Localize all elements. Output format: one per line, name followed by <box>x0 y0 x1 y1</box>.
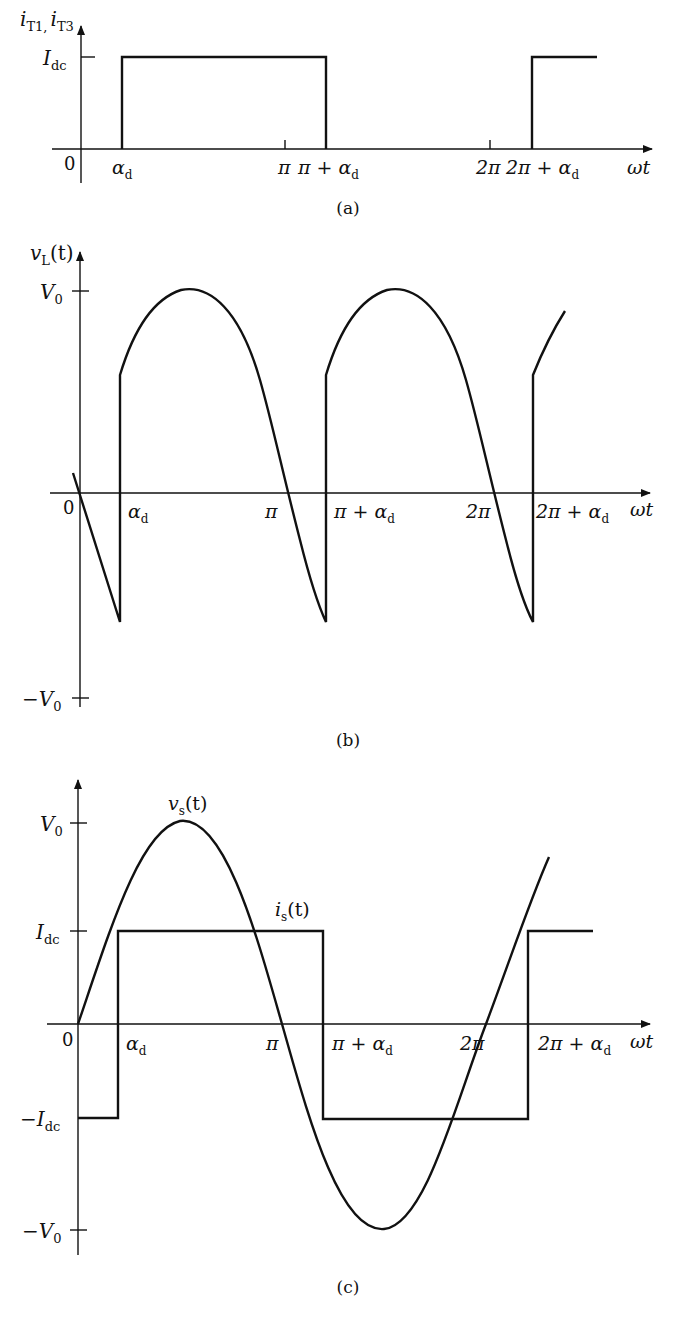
panel-b-xtick-pi-alpha: π + αd <box>333 500 395 526</box>
panel-a-thyristor-current: iT1,iT3 Idc 0 αd π π + αd 2π 2π + αd ωt … <box>20 7 652 218</box>
panel-c-xtick-2pi: 2π <box>459 1032 485 1054</box>
waveform-figure: iT1,iT3 Idc 0 αd π π + αd 2π 2π + αd ωt … <box>0 0 673 1326</box>
panel-a-caption: (a) <box>336 198 359 218</box>
panel-a-xtick-pi-alpha: π + αd <box>297 156 359 182</box>
panel-a-current-trace <box>122 57 326 149</box>
panel-b-x-label: ωt <box>630 498 653 520</box>
panel-c-xtick-2pi-alpha: 2π + αd <box>537 1032 611 1058</box>
panel-b-xtick-pi: π <box>264 500 278 522</box>
panel-c-x-label: ωt <box>630 1030 653 1052</box>
panel-c-origin-label: 0 <box>62 1029 73 1050</box>
panel-c-v0-label: V0 <box>40 812 63 839</box>
panel-c-xtick-alpha: αd <box>126 1032 147 1058</box>
panel-a-origin-label: 0 <box>64 153 75 174</box>
panel-a-x-label: ωt <box>627 156 650 178</box>
panel-a-xtick-2pi: 2π <box>475 156 501 178</box>
panel-b-origin-label: 0 <box>63 497 74 518</box>
panel-a-idc-label: Idc <box>42 46 67 73</box>
panel-b-voltage-trace <box>73 289 565 622</box>
panel-c-idc-label: Idc <box>35 920 60 947</box>
panel-b-y-label: vL(t) <box>30 241 74 268</box>
panel-b-xtick-2pi-alpha: 2π + αd <box>535 500 609 526</box>
panel-c-is-label: is(t) <box>275 898 310 924</box>
panel-a-current-trace-2 <box>532 57 597 149</box>
panel-b-xtick-2pi: 2π <box>465 500 491 522</box>
panel-c-xtick-pi-alpha: π + αd <box>331 1032 393 1058</box>
panel-c-vs-label: vs(t) <box>168 792 207 818</box>
panel-c-vs-trace <box>78 821 549 1229</box>
panel-c-source-voltage-current: vs(t) is(t) V0 Idc −Idc −V0 0 αd π π + α… <box>20 780 653 1297</box>
panel-c-neg-idc-label: −Idc <box>20 1107 60 1134</box>
panel-c-neg-v0-label: −V0 <box>22 1219 61 1246</box>
panel-b-v0-label: V0 <box>40 280 63 307</box>
panel-c-is-trace <box>78 931 593 1119</box>
panel-a-y-label: iT1,iT3 <box>20 7 74 34</box>
panel-b-caption: (b) <box>336 730 360 750</box>
panel-b-load-voltage: vL(t) V0 −V0 0 αd π π + αd 2π 2π + αd ωt… <box>22 241 653 750</box>
panel-b-xtick-alpha: αd <box>128 500 149 526</box>
panel-b-neg-v0-label: −V0 <box>22 687 61 714</box>
panel-c-caption: (c) <box>337 1277 360 1297</box>
panel-a-xtick-2pi-alpha: 2π + αd <box>505 156 579 182</box>
panel-a-xtick-alpha: αd <box>112 156 133 182</box>
panel-c-xtick-pi: π <box>265 1032 279 1054</box>
panel-a-xtick-pi: π <box>277 156 291 178</box>
